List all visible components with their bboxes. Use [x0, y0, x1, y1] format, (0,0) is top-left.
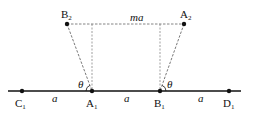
point-d1 [227, 89, 231, 93]
point-a1 [90, 89, 94, 93]
label-a2: A2 [180, 8, 192, 22]
segment-label-a1-b1: a [124, 92, 130, 104]
diagram-canvas: C1 A1 B1 D1 B2 A2 a a a ma θ θ [0, 0, 255, 115]
point-b2 [65, 22, 69, 26]
point-a2 [182, 22, 186, 26]
segment-label-b1-d1: a [198, 92, 204, 104]
angle-label-right: θ [167, 78, 173, 90]
segment-label-c1-a1: a [52, 92, 58, 104]
label-d1: D1 [223, 97, 235, 111]
point-b1 [158, 89, 162, 93]
label-a1: A1 [86, 97, 98, 111]
angle-label-left: θ [78, 78, 84, 90]
segment-label-top: ma [130, 11, 144, 23]
point-c1 [20, 89, 24, 93]
angle-arc-right [162, 85, 166, 91]
label-b1: B1 [154, 97, 165, 111]
label-b2: B2 [61, 8, 72, 22]
label-c1: C1 [15, 97, 26, 111]
angle-arc-left [86, 85, 90, 91]
